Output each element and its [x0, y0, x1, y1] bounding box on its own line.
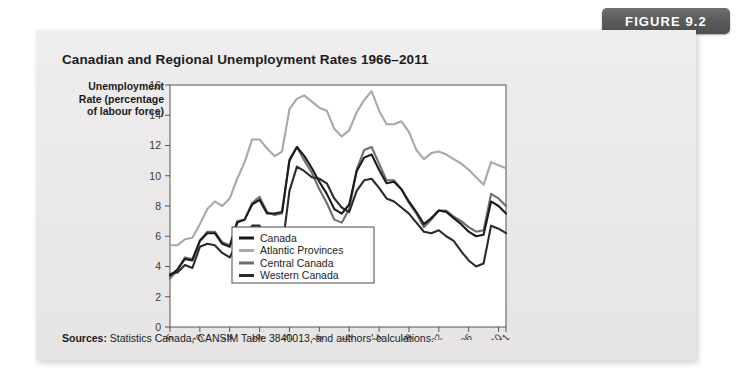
sources-text: Statistics Canada, CANSIM Table 3840013,…: [107, 332, 434, 344]
sources-note: Sources: Statistics Canada, CANSIM Table…: [62, 332, 434, 344]
y-axis-tick-label: 12: [149, 139, 161, 151]
figure-container: FIGURE 9.2 Canadian and Regional Unemplo…: [0, 0, 748, 390]
chart-area: Unemployment Rate (percentage of labour …: [36, 75, 696, 340]
y-axis-tick-label: 10: [149, 170, 161, 182]
sources-label: Sources:: [62, 332, 107, 344]
legend-label-central-canada: Central Canada: [260, 257, 334, 269]
y-axis-tick-label: 0: [155, 321, 161, 333]
y-axis-tick-label: 14: [149, 109, 161, 121]
y-axis-tick-label: 6: [155, 230, 161, 242]
figure-card: Canadian and Regional Unemployment Rates…: [36, 30, 696, 360]
legend-label-atlantic-provinces: Atlantic Provinces: [260, 244, 343, 256]
y-axis-tick-label: 4: [155, 260, 161, 272]
y-axis-tick-label: 8: [155, 200, 161, 212]
y-axis-tick-label: 2: [155, 291, 161, 303]
line-chart-svg: 0246810121416196619701974197819821986199…: [36, 75, 696, 340]
x-axis-tick-label: 2006: [451, 331, 475, 340]
legend-label-canada: Canada: [260, 232, 297, 244]
figure-title: Canadian and Regional Unemployment Rates…: [62, 52, 429, 67]
legend-label-western-canada: Western Canada: [260, 269, 339, 281]
figure-number-label: FIGURE 9.2: [625, 14, 707, 29]
y-axis-tick-label: 16: [149, 79, 161, 91]
